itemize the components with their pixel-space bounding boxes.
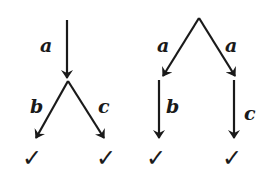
right-tree-terminal-checkmark-icon: ✓ [146, 144, 166, 172]
left-tree-edge-label: c [98, 95, 110, 117]
right-tree-edge-label: a [157, 34, 169, 56]
left-tree-terminal-checkmark-icon: ✓ [22, 144, 42, 172]
process-tree-diagram: abc✓✓ aabc✓✓ [0, 0, 266, 175]
left-tree-edge-label: b [30, 95, 43, 117]
right-tree-edge-label: c [244, 102, 256, 124]
right-tree-edge-label: a [225, 34, 237, 56]
right-tree-edge-label: b [166, 95, 179, 117]
left-tree: abc✓✓ [22, 20, 116, 172]
left-tree-terminal-checkmark-icon: ✓ [96, 144, 116, 172]
left-tree-edge-label: a [40, 34, 52, 56]
right-tree-terminal-checkmark-icon: ✓ [222, 144, 242, 172]
right-tree: aabc✓✓ [146, 18, 256, 172]
